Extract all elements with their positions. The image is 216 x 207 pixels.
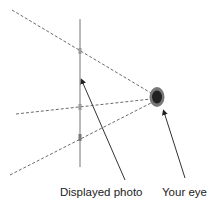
diagram-graphic: [0, 0, 216, 207]
diagram: Displayed photo Your eye: [0, 0, 216, 207]
photo-mark-middle: [79, 104, 82, 110]
eye-arrow: [164, 112, 185, 178]
eye-pupil-icon: [152, 91, 162, 104]
photo-mark-bottom: [79, 134, 82, 141]
sight-line-middle: [16, 99, 151, 114]
photo-arrow: [82, 81, 125, 180]
photo-label: Displayed photo: [60, 186, 142, 198]
photo-mark-top: [79, 48, 82, 54]
eye-label: Your eye: [162, 186, 207, 198]
